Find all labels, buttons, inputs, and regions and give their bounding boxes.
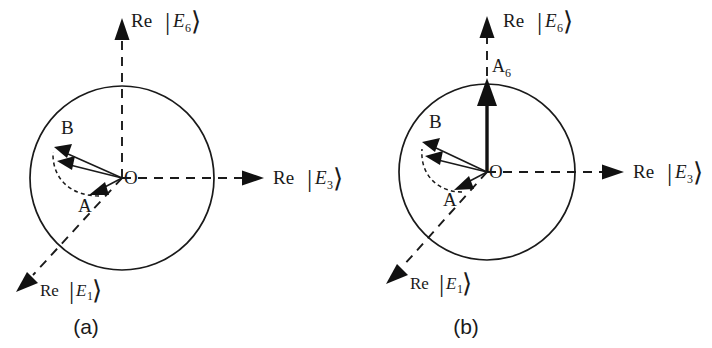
axis-e1-label: Re | E 1 ⟩ bbox=[410, 269, 472, 298]
panel-b: O A 6 B A Re | E 6 ⟩ Re | E bbox=[356, 0, 712, 348]
axis-e1-re: Re bbox=[40, 281, 59, 300]
axis-e1-ket: ⟩ bbox=[92, 276, 102, 305]
axis-e6-field: E bbox=[544, 10, 557, 31]
axis-e1-field: E bbox=[445, 274, 457, 293]
vector-b-arrowhead bbox=[422, 138, 440, 152]
vector-mid-arrowhead bbox=[57, 156, 75, 170]
panel-a-canvas: O B A Re | E 6 ⟩ Re | E 3 ⟩ bbox=[0, 0, 356, 348]
axis-e1-bar: | bbox=[439, 269, 444, 298]
vector-a6-label-letter: A bbox=[492, 56, 505, 76]
vector-a-arrowhead bbox=[454, 176, 474, 190]
axis-e3-arrowhead bbox=[242, 171, 264, 186]
axis-e6-re: Re bbox=[131, 10, 152, 31]
vector-a-label: A bbox=[443, 189, 457, 210]
rotation-arc bbox=[53, 152, 99, 196]
vector-b-label: B bbox=[429, 111, 442, 132]
axis-e1-ket: ⟩ bbox=[462, 269, 472, 298]
axis-e3-bar: | bbox=[667, 158, 672, 187]
axis-e3-field: E bbox=[674, 161, 687, 182]
axis-e1-bar: | bbox=[69, 276, 74, 305]
vector-a6-label: A 6 bbox=[492, 56, 511, 80]
panel-b-canvas: O A 6 B A Re | E 6 ⟩ Re | E bbox=[356, 0, 712, 348]
vector-a6-label-sub: 6 bbox=[505, 66, 511, 80]
axis-e6-re: Re bbox=[503, 10, 524, 31]
axis-e1-arrowhead bbox=[16, 272, 38, 292]
axis-e3-re: Re bbox=[273, 167, 294, 188]
axis-e3-label: Re | E 3 ⟩ bbox=[273, 164, 343, 193]
axis-e3-ket: ⟩ bbox=[693, 158, 703, 187]
axis-e3-arrowhead bbox=[602, 165, 624, 180]
vector-a-arrowhead bbox=[89, 182, 109, 195]
axis-e6-label: Re | E 6 ⟩ bbox=[131, 7, 201, 36]
vector-b-arrowhead bbox=[54, 144, 72, 158]
axis-e1-label: Re | E 1 ⟩ bbox=[40, 276, 102, 305]
origin-label: O bbox=[489, 161, 503, 182]
vector-mid-arrowhead bbox=[425, 151, 443, 165]
axis-e6-ket: ⟩ bbox=[563, 7, 573, 36]
axis-e6-label: Re | E 6 ⟩ bbox=[503, 7, 573, 36]
axis-e6-ket: ⟩ bbox=[191, 7, 201, 36]
axis-e1-re: Re bbox=[410, 274, 429, 293]
axis-e1-field: E bbox=[75, 281, 87, 300]
axis-e1-line bbox=[403, 172, 487, 266]
panel-a-caption: (a) bbox=[73, 315, 99, 338]
axis-e6-bar: | bbox=[165, 7, 170, 36]
axis-e3-ket: ⟩ bbox=[333, 164, 343, 193]
axis-e3-label: Re | E 3 ⟩ bbox=[633, 158, 703, 187]
vector-b-label: B bbox=[61, 117, 74, 138]
axis-e3-re: Re bbox=[633, 161, 654, 182]
vector-b-line bbox=[436, 148, 487, 172]
axis-e3-field: E bbox=[314, 167, 327, 188]
axis-e3-bar: | bbox=[307, 164, 312, 193]
axis-e6-arrowhead bbox=[480, 16, 495, 38]
panel-a: O B A Re | E 6 ⟩ Re | E 3 ⟩ bbox=[0, 0, 356, 348]
axis-e6-field: E bbox=[172, 10, 185, 31]
vector-a-label: A bbox=[78, 195, 92, 216]
axis-e1-arrowhead bbox=[386, 264, 408, 284]
axis-e6-bar: | bbox=[537, 7, 542, 36]
figure-root: O B A Re | E 6 ⟩ Re | E 3 ⟩ bbox=[0, 0, 712, 348]
vector-a6-arrowhead bbox=[477, 78, 497, 106]
vector-mid-line bbox=[438, 160, 487, 172]
panel-b-caption: (b) bbox=[453, 315, 479, 338]
origin-label: O bbox=[124, 167, 138, 188]
axis-e6-arrowhead bbox=[115, 18, 130, 40]
